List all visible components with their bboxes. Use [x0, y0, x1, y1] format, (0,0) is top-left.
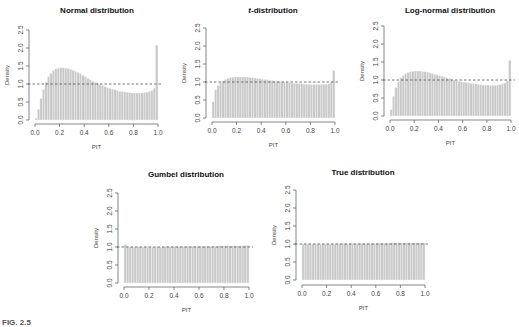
- x-tick-label: 0.8: [396, 290, 405, 297]
- histogram-bar: [197, 246, 200, 283]
- histogram-bar: [426, 72, 428, 116]
- histogram-bar: [164, 247, 167, 283]
- histogram-bar: [94, 82, 96, 120]
- histogram-bar: [92, 81, 94, 120]
- chart-title: True distribution: [331, 168, 394, 177]
- histogram-bar: [119, 91, 121, 120]
- histogram-bar: [209, 246, 212, 283]
- y-tick-label: 2.5: [372, 21, 379, 30]
- histogram-bar: [288, 83, 290, 118]
- histogram-bar: [184, 247, 187, 283]
- y-tick-label: 1.0: [284, 239, 291, 248]
- histogram-bar: [325, 84, 327, 118]
- histogram-bar: [144, 247, 147, 283]
- histogram-bar: [414, 71, 416, 116]
- histogram-bar: [395, 88, 397, 116]
- x-tick-label: 0.6: [194, 292, 203, 299]
- histogram-bar: [318, 85, 320, 118]
- x-tick-label: 0.8: [129, 129, 138, 136]
- histogram-bar: [482, 85, 484, 116]
- histogram-bar: [182, 247, 185, 283]
- histogram-bar: [129, 247, 132, 283]
- histogram-bar: [388, 243, 390, 280]
- histogram-bar: [217, 246, 220, 283]
- histogram-bar: [453, 80, 455, 116]
- histogram-bar: [463, 82, 465, 116]
- histogram-bar: [458, 81, 460, 116]
- histogram-bar: [324, 244, 326, 280]
- histogram-bar: [400, 78, 402, 116]
- y-tick-label: 2.0: [106, 206, 113, 215]
- histogram-bar: [301, 84, 303, 118]
- histogram-bar: [467, 83, 469, 116]
- histogram-bar: [224, 246, 227, 283]
- histogram-bar: [106, 88, 108, 120]
- histogram-bar: [291, 83, 293, 118]
- histogram-bar: [329, 244, 331, 280]
- histogram-bar: [327, 244, 329, 280]
- histogram-bar: [429, 73, 431, 116]
- histogram-bar: [407, 72, 409, 116]
- y-tick-label: 2.0: [17, 43, 24, 52]
- histogram-bar: [114, 90, 116, 120]
- histogram-bar: [79, 74, 81, 120]
- histogram-bar: [74, 71, 76, 120]
- y-tick-label: 0.5: [106, 260, 113, 269]
- histogram-bar: [489, 85, 491, 116]
- histogram-bar: [366, 244, 368, 280]
- histogram-bar: [398, 243, 400, 280]
- y-axis-label: Density: [359, 61, 365, 81]
- x-tick-label: 0.0: [385, 125, 394, 132]
- histogram-bar: [293, 83, 295, 118]
- chart-title: Normal distribution: [60, 6, 134, 15]
- histogram-bar: [251, 78, 253, 118]
- y-axis-label: Density: [271, 225, 277, 245]
- histogram-bars: [35, 45, 158, 120]
- histogram-bar: [312, 244, 314, 280]
- x-tick-label: 1.0: [153, 129, 162, 136]
- histogram-bar: [351, 244, 353, 280]
- histogram-bar: [501, 84, 503, 116]
- histogram-bar: [334, 244, 336, 280]
- histogram-bar: [381, 243, 383, 280]
- histogram-bar: [412, 71, 414, 116]
- histogram-bar: [179, 247, 182, 283]
- histogram-bar: [383, 243, 385, 280]
- histogram-bar: [133, 93, 135, 120]
- histogram-bar: [465, 83, 467, 116]
- y-tick-label: 0.0: [17, 115, 24, 124]
- y-tick-label: 0.5: [17, 97, 24, 106]
- histogram-bar: [132, 247, 135, 283]
- x-tick-label: 0.0: [297, 290, 306, 297]
- y-axis-label: Density: [181, 63, 187, 83]
- histogram-bar: [156, 45, 158, 120]
- histogram-bar: [434, 74, 436, 116]
- x-tick-label: 0.6: [281, 127, 290, 134]
- histogram-bar: [138, 93, 140, 120]
- histogram-bar: [192, 246, 195, 283]
- histogram-bar: [242, 246, 245, 283]
- x-tick-label: 0.2: [410, 125, 419, 132]
- histogram-bar: [472, 84, 474, 116]
- histogram-bar: [169, 247, 172, 283]
- y-tick-label: 2.5: [17, 25, 24, 34]
- y-tick-label: 0.0: [194, 113, 201, 122]
- x-tick-label: 0.6: [458, 125, 467, 132]
- histogram-bar: [47, 77, 49, 120]
- histogram-bar: [227, 246, 230, 283]
- histogram-bar: [349, 244, 351, 280]
- histogram-bar: [392, 96, 394, 116]
- histogram-bar: [320, 85, 322, 118]
- x-tick-label: 0.0: [30, 129, 39, 136]
- histogram-bars: [302, 243, 425, 280]
- histogram-bar: [509, 60, 511, 116]
- y-tick-label: 1.5: [284, 221, 291, 230]
- x-axis-label: PIT: [92, 144, 102, 150]
- y-tick-label: 0.5: [194, 95, 201, 104]
- histogram-bar: [319, 244, 321, 280]
- y-tick-label: 1.0: [17, 79, 24, 88]
- x-tick-label: 0.8: [482, 125, 491, 132]
- histogram-bar: [480, 85, 482, 116]
- histogram-bar: [212, 102, 214, 118]
- histogram-bar: [162, 247, 165, 283]
